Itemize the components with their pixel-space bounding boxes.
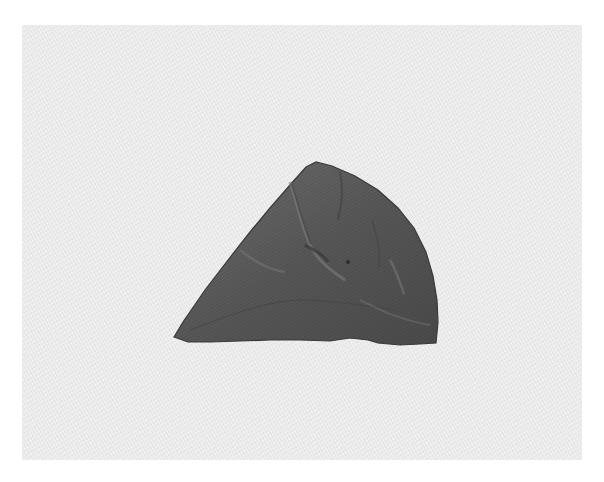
stone-fragment (0, 0, 604, 482)
